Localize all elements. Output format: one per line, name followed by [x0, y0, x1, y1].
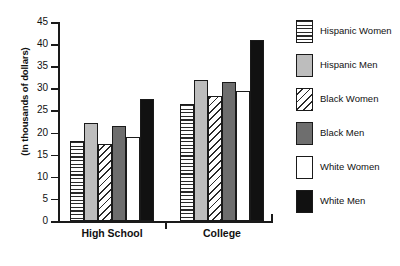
legend-item-white-women[interactable]: White Women	[296, 150, 400, 184]
legend-label: Black Men	[320, 128, 364, 138]
x-axis-category-label: College	[158, 227, 286, 239]
bar	[126, 137, 140, 221]
y-tick-label: 35	[22, 61, 48, 71]
y-tick-label: 10	[22, 172, 48, 182]
legend-item-hispanic-men[interactable]: Hispanic Men	[296, 48, 400, 82]
y-tick-label: 5	[22, 194, 48, 204]
legend-swatch-icon	[296, 20, 313, 43]
legend-label: Hispanic Women	[320, 26, 392, 36]
bar	[98, 144, 112, 221]
plot-area: 051015202530354045 High SchoolCollege	[58, 22, 272, 222]
bar	[180, 104, 194, 221]
bar	[194, 80, 208, 222]
legend-label: White Men	[320, 196, 365, 206]
legend-swatch-icon	[296, 54, 313, 77]
y-tick-mark	[51, 110, 58, 112]
y-tick-label: 45	[22, 17, 48, 27]
legend-swatch-icon	[296, 88, 313, 111]
legend-swatch-icon	[296, 190, 313, 213]
y-tick-mark	[51, 133, 58, 135]
legend-item-white-men[interactable]: White Men	[296, 184, 400, 218]
bar	[236, 91, 250, 221]
legend-item-hispanic-women[interactable]: Hispanic Women	[296, 14, 400, 48]
y-tick-mark	[51, 66, 58, 68]
bar	[208, 96, 222, 221]
y-tick-label: 15	[22, 150, 48, 160]
bar	[250, 40, 264, 221]
y-tick-mark	[51, 88, 58, 90]
y-tick-mark	[51, 199, 58, 201]
y-tick-label: 30	[22, 83, 48, 93]
bar	[70, 141, 84, 221]
y-tick-mark	[51, 177, 58, 179]
y-tick-label: 0	[22, 216, 48, 226]
legend-label: White Women	[320, 162, 379, 172]
y-axis-line	[58, 22, 60, 223]
bar	[112, 126, 126, 221]
legend-swatch-icon	[296, 122, 313, 145]
legend-label: Black Women	[320, 94, 378, 104]
y-tick-mark	[51, 221, 58, 223]
bar	[222, 82, 236, 221]
grouped-bar-chart: (In thousands of dollars) 05101520253035…	[0, 0, 400, 266]
x-axis-category-label: High School	[48, 227, 176, 239]
legend-swatch-icon	[296, 156, 313, 179]
y-tick-label: 20	[22, 128, 48, 138]
legend-label: Hispanic Men	[320, 60, 378, 70]
y-tick-mark	[51, 155, 58, 157]
bar	[84, 123, 98, 221]
x-axis-right-cap	[271, 214, 273, 223]
legend-item-black-women[interactable]: Black Women	[296, 82, 400, 116]
chart-legend: Hispanic WomenHispanic MenBlack WomenBla…	[296, 14, 400, 218]
y-tick-mark	[51, 22, 58, 24]
bar	[140, 99, 154, 221]
y-tick-label: 25	[22, 105, 48, 115]
y-tick-mark	[51, 44, 58, 46]
legend-item-black-men[interactable]: Black Men	[296, 116, 400, 150]
y-tick-label: 40	[22, 39, 48, 49]
